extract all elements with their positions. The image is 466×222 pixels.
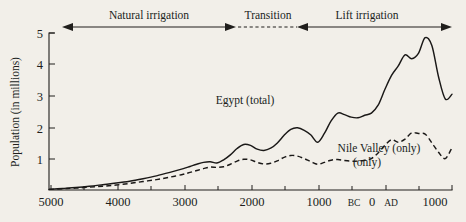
y-tick-label-3: 3 [37,90,43,104]
lift-irrigation-arrow-head-left [297,23,308,31]
x-tick-label-5000: 5000 [39,195,64,209]
x-tick-label-ad1000: 1000 [423,195,448,209]
phase-natural-irrigation: Natural irrigation [62,9,236,31]
y-axis-title: Population (in millions) [9,57,22,167]
lift-irrigation-arrow-head-right [441,23,452,31]
natural-irrigation-arrow-head-left [62,23,73,31]
chart-svg: Natural irrigation Transition Lift irrig… [0,0,466,222]
y-tick-label-1: 1 [37,153,43,167]
axis-lines [49,33,452,190]
series-labels: Egypt (total) Nile Valley (only) (only) [216,94,421,169]
natural-irrigation-arrow-head-right [225,23,236,31]
y-tick-label-5: 5 [37,27,43,41]
phase-label-lift-irrigation: Lift irrigation [336,9,399,22]
x-tick-label-ad: AD [384,198,398,208]
x-tick-label-1000: 1000 [307,195,332,209]
x-axis-tick-labels: 5000 4000 3000 2000 1000 BC 0 AD 1000 [39,195,448,209]
y-axis-tick-labels: 5 4 3 2 1 [37,27,44,167]
x-tick-label-4000: 4000 [106,195,131,209]
population-chart-figure: Natural irrigation Transition Lift irrig… [0,0,466,222]
y-tick-label-2: 2 [37,122,43,136]
phase-label-natural-irrigation: Natural irrigation [109,9,189,22]
phase-transition: Transition [238,9,297,27]
data-curves [49,37,452,189]
curve-egypt-total [49,37,452,189]
phase-lift-irrigation: Lift irrigation [297,9,452,31]
x-tick-label-3000: 3000 [173,195,198,209]
series-label-egypt-total: Egypt (total) [216,94,275,107]
series-label-nile-valley: Nile Valley (only) [338,142,421,155]
y-axis-ticks [49,33,55,159]
phase-label-transition: Transition [245,9,292,21]
x-tick-label-2000: 2000 [240,195,265,209]
x-tick-label-bc: BC [348,198,361,208]
x-tick-label-zero: 0 [369,195,375,209]
phase-annotations: Natural irrigation Transition Lift irrig… [62,9,452,31]
y-tick-label-4: 4 [37,58,44,72]
axes: 5 4 3 2 1 Population (in millions) [9,27,452,209]
series-label-nile-valley-line2: (only) [353,156,381,169]
